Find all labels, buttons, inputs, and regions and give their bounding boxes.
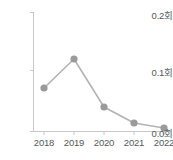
x-axis-label-2018: 2018 [27, 137, 61, 148]
y-axis-label-0.1: 0.1회 [139, 65, 173, 79]
line-chart: 0.2회 0.1회 0.0회 2018 2019 2020 2021 2022 [0, 0, 173, 160]
x-axis-label-2019: 2019 [57, 137, 91, 148]
data-point-2019 [70, 55, 77, 62]
x-axis-label-2021: 2021 [117, 137, 151, 148]
y-axis-label-0.2: 0.2회 [139, 8, 173, 22]
data-point-2018 [40, 84, 47, 91]
data-point-2020 [100, 103, 107, 110]
data-point-2021 [130, 119, 137, 126]
x-axis-label-2022: 2022 [147, 137, 173, 148]
x-axis-label-2020: 2020 [87, 137, 121, 148]
